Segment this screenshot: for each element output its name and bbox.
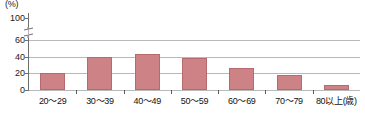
x-axis-tick-label: 80以上(歳)	[313, 96, 360, 107]
x-axis-tick-label: 70〜79	[265, 96, 312, 107]
bar	[182, 58, 207, 90]
bar	[87, 57, 112, 90]
x-axis-tickmark	[265, 90, 266, 94]
gridline	[29, 90, 360, 91]
x-axis-tick-label: 20〜29	[29, 96, 76, 107]
x-axis-tickmark	[171, 90, 172, 94]
x-axis-tick-label: 50〜59	[171, 96, 218, 107]
y-axis-tick-label: 0	[20, 86, 25, 95]
x-axis-tickmark	[218, 90, 219, 94]
x-axis-tickmark	[76, 90, 77, 94]
x-axis-tick-label: 40〜49	[124, 96, 171, 107]
y-axis-tick-label: 40	[15, 52, 25, 61]
y-axis-unit-label: (%)	[5, 0, 18, 9]
y-axis-tick-label: 60	[15, 36, 25, 45]
bars-group	[29, 13, 360, 90]
y-axis-tick-label: 100	[10, 14, 25, 23]
x-axis-tick-label: 30〜39	[76, 96, 123, 107]
bar	[277, 75, 302, 90]
bar	[229, 68, 254, 91]
bar	[135, 54, 160, 90]
x-axis-tick-label: 60〜69	[218, 96, 265, 107]
x-axis-tickmark	[313, 90, 314, 94]
bar	[40, 73, 65, 90]
x-axis-label-group: 20〜2930〜3940〜4950〜5960〜6970〜7980以上(歳)	[29, 96, 360, 112]
x-axis-tickmark	[124, 90, 125, 94]
y-axis-tickmark	[25, 90, 29, 91]
y-axis-tick-label: 20	[15, 69, 25, 78]
bar	[324, 85, 349, 90]
bar-chart: (%) 1006040200 20〜2930〜3940〜4950〜5960〜69…	[0, 0, 365, 116]
